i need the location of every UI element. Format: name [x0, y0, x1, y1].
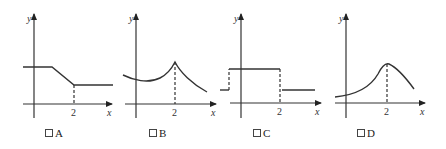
- x-label-c: x: [314, 106, 320, 117]
- x-tick-a: 2: [71, 107, 76, 118]
- checkbox-b[interactable]: [149, 129, 157, 137]
- checkbox-c[interactable]: [253, 129, 261, 137]
- graphs-canvas: y x y x y x y x 2 2 2 2: [0, 0, 446, 149]
- x-tick-c: 2: [277, 106, 282, 117]
- x-tick-b: 2: [172, 107, 177, 118]
- x-label-b: x: [210, 107, 216, 118]
- graph-b: [123, 14, 216, 118]
- y-label-c: y: [233, 13, 239, 24]
- graph-d: [335, 14, 425, 118]
- curve-a: [23, 67, 113, 85]
- checkbox-d[interactable]: [357, 129, 365, 137]
- curve-d: [335, 64, 414, 97]
- option-b[interactable]: B: [149, 127, 166, 139]
- option-b-label: B: [159, 127, 166, 139]
- y-label-b: y: [128, 13, 134, 24]
- option-c-label: C: [263, 127, 270, 139]
- graph-c: [220, 14, 321, 118]
- option-a-label: A: [55, 127, 63, 139]
- y-label-a: y: [26, 13, 32, 24]
- option-d-label: D: [367, 127, 375, 139]
- option-d[interactable]: D: [357, 127, 375, 139]
- option-a[interactable]: A: [45, 127, 63, 139]
- checkbox-a[interactable]: [45, 129, 53, 137]
- y-label-d: y: [338, 13, 344, 24]
- x-tick-d: 2: [384, 106, 389, 117]
- x-label-d: x: [419, 106, 425, 117]
- x-label-a: x: [106, 107, 112, 118]
- graph-a: [23, 14, 113, 118]
- option-c[interactable]: C: [253, 127, 270, 139]
